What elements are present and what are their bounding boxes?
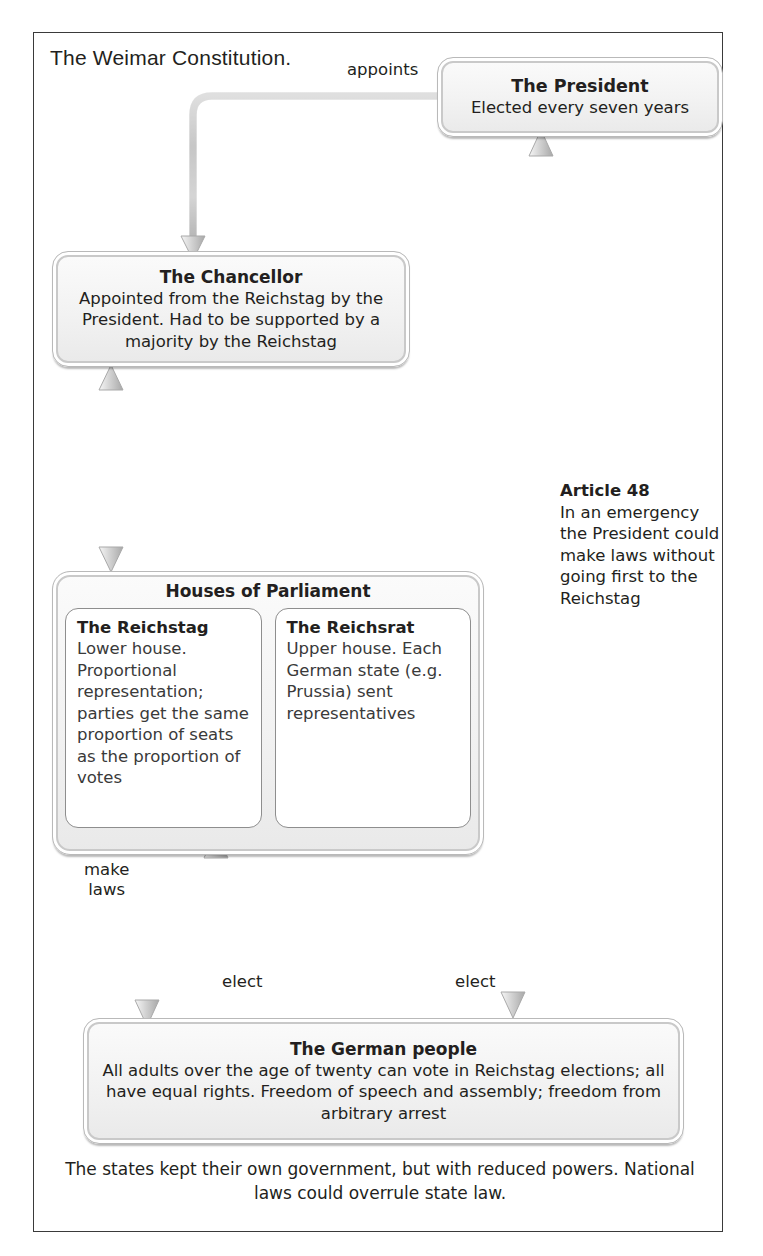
node-reichsrat[interactable]: The Reichsrat Upper house. Each German s… [275, 608, 472, 828]
node-german-people[interactable]: The German people All adults over the ag… [83, 1018, 684, 1144]
article-48-title: Article 48 [560, 480, 720, 502]
people-heading: The German people [290, 1038, 477, 1060]
diagram-canvas: The Weimar Constitution. The President E… [0, 0, 763, 1256]
edge-label-appoints: appoints [347, 60, 418, 80]
node-houses-of-parliament[interactable]: Houses of Parliament The Reichstag Lower… [52, 571, 484, 855]
houses-container: The Reichstag Lower house. Proportional … [53, 608, 483, 840]
reichsrat-name: The Reichsrat [287, 617, 462, 638]
annotation-article-48: Article 48 In an emergency the President… [560, 480, 720, 609]
parliament-heading: Houses of Parliament [53, 580, 483, 602]
node-reichstag[interactable]: The Reichstag Lower house. Proportional … [65, 608, 262, 828]
edge-label-elect-president: elect [455, 972, 495, 992]
people-body: All adults over the age of twenty can vo… [84, 1060, 683, 1125]
node-president[interactable]: The President Elected every seven years [437, 57, 723, 137]
node-chancellor[interactable]: The Chancellor Appointed from the Reichs… [52, 251, 410, 367]
chancellor-body: Appointed from the Reichstag by the Pres… [53, 288, 409, 353]
president-heading: The President [511, 75, 648, 97]
diagram-caption: The states kept their own government, bu… [60, 1157, 700, 1205]
edge-label-make-laws: make laws [84, 860, 129, 900]
reichsrat-text: Upper house. Each German state (e.g. Pru… [287, 638, 462, 724]
reichstag-name: The Reichstag [77, 617, 252, 638]
chancellor-heading: The Chancellor [160, 266, 303, 288]
president-body: Elected every seven years [459, 97, 701, 119]
reichstag-text: Lower house. Proportional representation… [77, 638, 252, 789]
article-48-text: In an emergency the President could make… [560, 502, 720, 610]
page-title: The Weimar Constitution. [50, 46, 291, 70]
edge-label-elect-reichstag: elect [222, 972, 262, 992]
